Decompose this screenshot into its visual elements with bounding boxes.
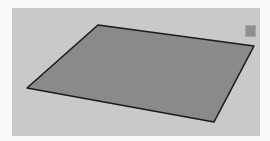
window-frame [0,0,270,141]
plane-mesh[interactable] [27,25,254,122]
viewport-canvas[interactable] [12,8,260,136]
3d-viewport[interactable] [12,8,260,136]
view-cube-icon[interactable] [245,25,256,37]
